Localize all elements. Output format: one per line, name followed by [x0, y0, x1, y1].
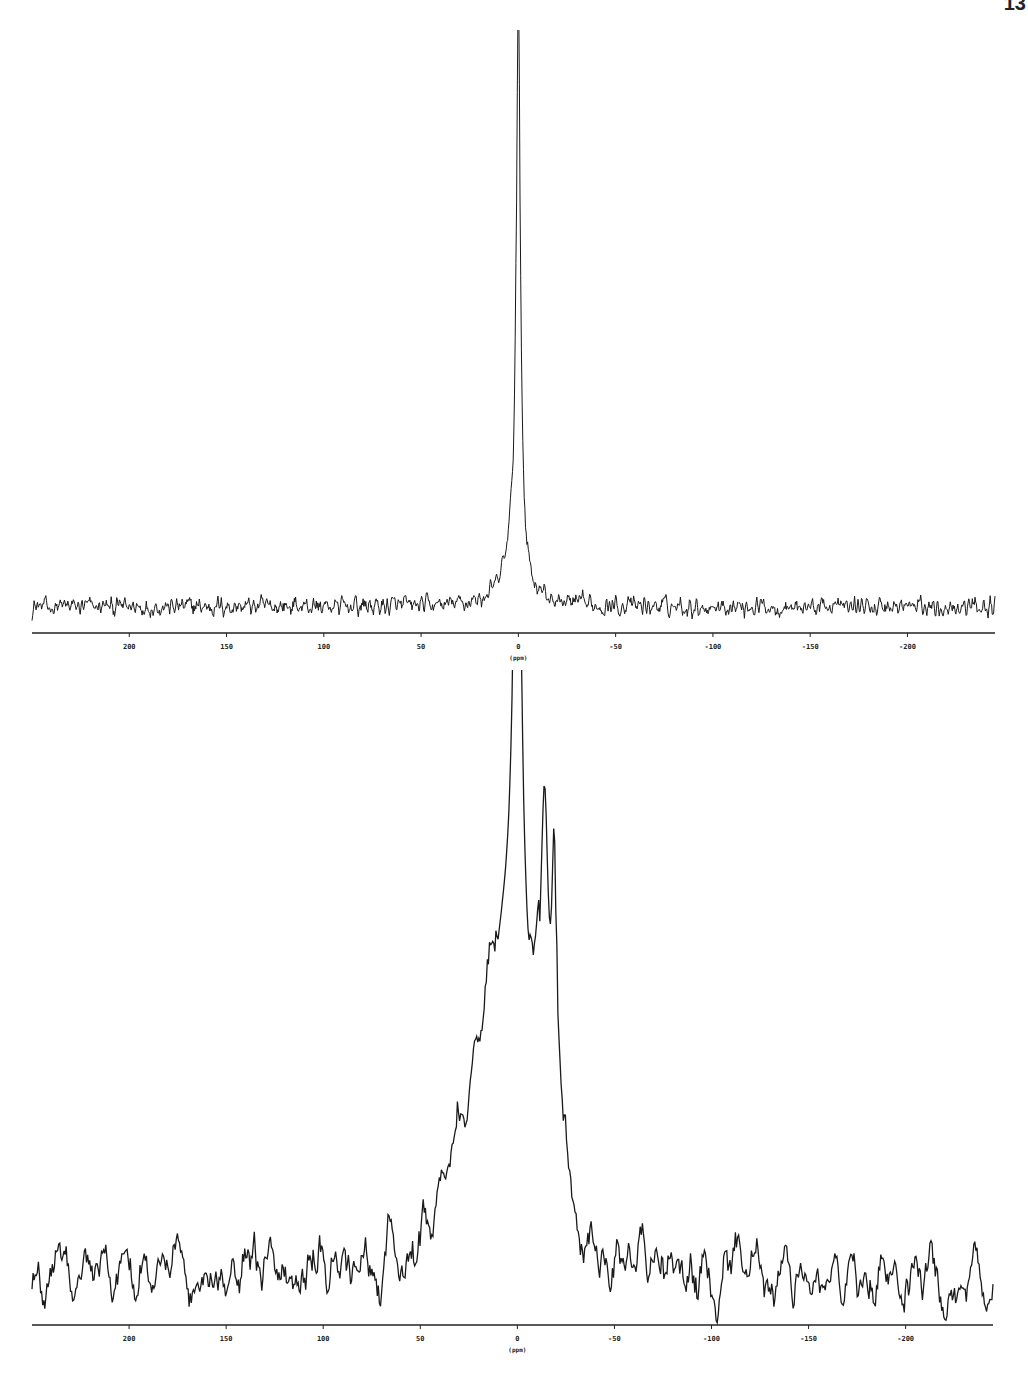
page-number: 13 [1004, 0, 1026, 15]
x-tick-label: 150 [220, 643, 233, 651]
x-tick-label: -150 [802, 643, 819, 651]
spectrum-trace [32, 670, 993, 1323]
x-tick-label: -200 [899, 643, 916, 651]
x-tick-label: -50 [608, 1335, 621, 1343]
nmr-spectrum-top: 200150100500-50-100-150-200(ppm) [0, 30, 1028, 670]
spectrum-trace [32, 30, 995, 621]
x-axis-unit-label: (ppm) [508, 1346, 526, 1354]
x-tick-label: 100 [317, 1335, 330, 1343]
x-tick-label: 50 [416, 1335, 424, 1343]
x-tick-label: 200 [123, 1335, 136, 1343]
x-tick-label: 0 [515, 1335, 519, 1343]
x-tick-label: -200 [897, 1335, 914, 1343]
x-tick-label: -50 [609, 643, 622, 651]
x-tick-label: 150 [220, 1335, 233, 1343]
x-axis-unit-label: (ppm) [509, 654, 527, 662]
x-tick-label: 200 [123, 643, 136, 651]
x-tick-label: -150 [800, 1335, 817, 1343]
x-tick-label: 100 [317, 643, 330, 651]
x-tick-label: 50 [417, 643, 425, 651]
x-tick-label: -100 [704, 643, 721, 651]
x-tick-label: -100 [703, 1335, 720, 1343]
x-tick-label: 0 [516, 643, 520, 651]
nmr-spectrum-bottom: 200150100500-50-100-150-200(ppm) [0, 670, 1028, 1394]
